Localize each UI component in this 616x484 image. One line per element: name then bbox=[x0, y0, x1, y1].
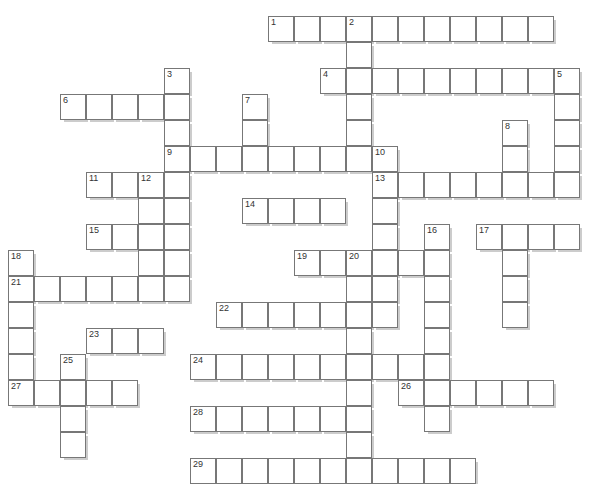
crossword-cell[interactable] bbox=[502, 16, 528, 42]
crossword-cell[interactable] bbox=[268, 406, 294, 432]
crossword-cell-numbered-7[interactable]: 7 bbox=[242, 94, 268, 120]
crossword-cell-numbered-23[interactable]: 23 bbox=[86, 328, 112, 354]
crossword-cell[interactable] bbox=[424, 16, 450, 42]
crossword-cell[interactable] bbox=[8, 354, 34, 380]
crossword-cell[interactable] bbox=[346, 380, 372, 406]
crossword-cell-numbered-6[interactable]: 6 bbox=[60, 94, 86, 120]
crossword-cell[interactable] bbox=[424, 328, 450, 354]
crossword-cell[interactable] bbox=[294, 406, 320, 432]
crossword-cell-numbered-4[interactable]: 4 bbox=[320, 68, 346, 94]
crossword-cell[interactable] bbox=[502, 224, 528, 250]
crossword-cell[interactable] bbox=[320, 354, 346, 380]
crossword-cell[interactable] bbox=[346, 432, 372, 458]
crossword-cell[interactable] bbox=[294, 458, 320, 484]
crossword-cell[interactable] bbox=[346, 458, 372, 484]
crossword-cell[interactable] bbox=[450, 380, 476, 406]
crossword-cell[interactable] bbox=[138, 224, 164, 250]
crossword-cell-numbered-27[interactable]: 27 bbox=[8, 380, 34, 406]
crossword-cell[interactable] bbox=[216, 458, 242, 484]
crossword-cell-numbered-9[interactable]: 9 bbox=[164, 146, 190, 172]
crossword-cell[interactable] bbox=[372, 276, 398, 302]
crossword-cell[interactable] bbox=[476, 16, 502, 42]
crossword-cell[interactable] bbox=[554, 224, 580, 250]
crossword-cell[interactable] bbox=[164, 94, 190, 120]
crossword-cell[interactable] bbox=[346, 302, 372, 328]
crossword-cell-numbered-14[interactable]: 14 bbox=[242, 198, 268, 224]
crossword-cell[interactable] bbox=[528, 172, 554, 198]
crossword-cell-numbered-12[interactable]: 12 bbox=[138, 172, 164, 198]
crossword-cell[interactable] bbox=[320, 458, 346, 484]
crossword-cell[interactable] bbox=[424, 380, 450, 406]
crossword-cell-numbered-5[interactable]: 5 bbox=[554, 68, 580, 94]
crossword-cell-numbered-18[interactable]: 18 bbox=[8, 250, 34, 276]
crossword-cell[interactable] bbox=[372, 250, 398, 276]
crossword-cell[interactable] bbox=[346, 328, 372, 354]
crossword-cell-numbered-20[interactable]: 20 bbox=[346, 250, 372, 276]
crossword-cell[interactable] bbox=[112, 328, 138, 354]
crossword-cell[interactable] bbox=[346, 406, 372, 432]
crossword-cell[interactable] bbox=[398, 354, 424, 380]
crossword-cell[interactable] bbox=[502, 172, 528, 198]
crossword-cell[interactable] bbox=[164, 172, 190, 198]
crossword-cell[interactable] bbox=[372, 16, 398, 42]
crossword-cell[interactable] bbox=[476, 68, 502, 94]
crossword-cell-numbered-29[interactable]: 29 bbox=[190, 458, 216, 484]
crossword-cell[interactable] bbox=[216, 406, 242, 432]
crossword-cell[interactable] bbox=[502, 380, 528, 406]
crossword-cell[interactable] bbox=[528, 16, 554, 42]
crossword-cell[interactable] bbox=[346, 94, 372, 120]
crossword-cell[interactable] bbox=[398, 250, 424, 276]
crossword-cell[interactable] bbox=[138, 198, 164, 224]
crossword-cell[interactable] bbox=[242, 146, 268, 172]
crossword-cell-numbered-13[interactable]: 13 bbox=[372, 172, 398, 198]
crossword-cell[interactable] bbox=[164, 224, 190, 250]
crossword-cell[interactable] bbox=[60, 406, 86, 432]
crossword-cell[interactable] bbox=[346, 354, 372, 380]
crossword-cell-numbered-22[interactable]: 22 bbox=[216, 302, 242, 328]
crossword-cell[interactable] bbox=[268, 302, 294, 328]
crossword-cell[interactable] bbox=[502, 250, 528, 276]
crossword-cell[interactable] bbox=[138, 94, 164, 120]
crossword-cell[interactable] bbox=[320, 198, 346, 224]
crossword-cell[interactable] bbox=[34, 276, 60, 302]
crossword-cell[interactable] bbox=[294, 198, 320, 224]
crossword-cell[interactable] bbox=[34, 380, 60, 406]
crossword-cell[interactable] bbox=[8, 328, 34, 354]
crossword-cell[interactable] bbox=[372, 198, 398, 224]
crossword-cell-numbered-24[interactable]: 24 bbox=[190, 354, 216, 380]
crossword-cell[interactable] bbox=[86, 94, 112, 120]
crossword-cell[interactable] bbox=[346, 42, 372, 68]
crossword-cell[interactable] bbox=[164, 250, 190, 276]
crossword-cell-numbered-19[interactable]: 19 bbox=[294, 250, 320, 276]
crossword-cell[interactable] bbox=[112, 94, 138, 120]
crossword-cell[interactable] bbox=[112, 380, 138, 406]
crossword-cell[interactable] bbox=[190, 146, 216, 172]
crossword-cell[interactable] bbox=[164, 198, 190, 224]
crossword-cell[interactable] bbox=[476, 380, 502, 406]
crossword-cell[interactable] bbox=[320, 16, 346, 42]
crossword-cell[interactable] bbox=[164, 276, 190, 302]
crossword-cell-numbered-28[interactable]: 28 bbox=[190, 406, 216, 432]
crossword-cell[interactable] bbox=[502, 276, 528, 302]
crossword-cell[interactable] bbox=[60, 432, 86, 458]
crossword-cell[interactable] bbox=[372, 458, 398, 484]
crossword-cell[interactable] bbox=[320, 302, 346, 328]
crossword-cell[interactable] bbox=[424, 302, 450, 328]
crossword-cell[interactable] bbox=[294, 354, 320, 380]
crossword-cell[interactable] bbox=[424, 250, 450, 276]
crossword-cell[interactable] bbox=[8, 302, 34, 328]
crossword-cell[interactable] bbox=[346, 120, 372, 146]
crossword-cell-numbered-17[interactable]: 17 bbox=[476, 224, 502, 250]
crossword-cell[interactable] bbox=[346, 146, 372, 172]
crossword-cell[interactable] bbox=[424, 276, 450, 302]
crossword-cell[interactable] bbox=[86, 276, 112, 302]
crossword-cell[interactable] bbox=[242, 302, 268, 328]
crossword-cell[interactable] bbox=[398, 16, 424, 42]
crossword-cell[interactable] bbox=[502, 68, 528, 94]
crossword-cell[interactable] bbox=[372, 302, 398, 328]
crossword-cell[interactable] bbox=[242, 406, 268, 432]
crossword-cell[interactable] bbox=[268, 198, 294, 224]
crossword-cell[interactable] bbox=[398, 458, 424, 484]
crossword-cell[interactable] bbox=[450, 16, 476, 42]
crossword-cell[interactable] bbox=[554, 94, 580, 120]
